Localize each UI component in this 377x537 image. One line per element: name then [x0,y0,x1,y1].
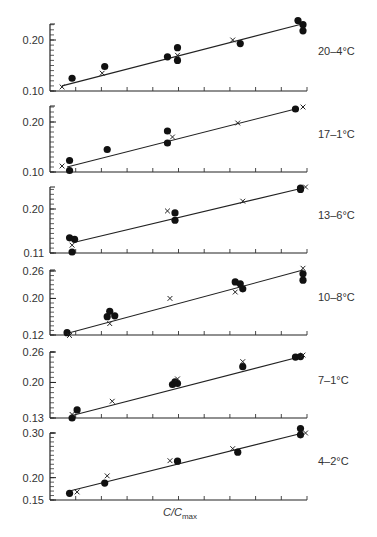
data-point-dot [174,458,181,465]
fit-line [62,24,303,86]
fit-line [67,109,295,167]
data-point-dot [171,209,178,216]
x-axis-label-sub: max [182,512,197,521]
panel-1: 0.200.1020–4°C [23,17,355,97]
data-point-cross [70,243,75,248]
data-point-cross [301,105,306,110]
panel-2: 0.200.1017–1°C [23,105,355,178]
data-point-dot [297,353,304,360]
data-point-dot [111,312,118,319]
data-point-cross [60,164,65,169]
stacked-scatter-chart: 0.200.1020–4°C0.200.1017–1°C0.200.1113–6… [0,0,377,537]
data-point-dot [299,277,306,284]
data-point-dot [164,139,171,146]
data-point-cross [303,431,308,436]
data-point-dot [66,157,73,164]
panel-3: 0.200.1113–6°C [23,184,355,259]
data-point-cross [105,473,110,478]
data-point-dot [299,270,306,277]
panel-5: 0.260.200.137–1°C [23,346,349,424]
y-tick-label: 0.12 [23,329,44,341]
y-tick-label: 0.10 [23,85,44,97]
y-tick-label: 0.20 [23,34,44,46]
y-tick-label: 0.20 [23,292,44,304]
data-point-dot [297,186,304,193]
fit-line [72,356,303,415]
data-point-dot [299,27,306,34]
data-point-dot [71,236,78,243]
panel-temperature-label: 10–8°C [318,291,355,303]
data-point-dot [171,217,178,224]
fit-line [75,188,303,242]
panel-temperature-label: 20–4°C [318,45,355,57]
data-point-dot [297,431,304,438]
data-point-dot [239,285,246,292]
data-point-dot [68,75,75,82]
panel-temperature-label: 13–6°C [318,209,355,221]
x-axis-label-main: C/C [163,506,182,518]
panel-temperature-label: 7–1°C [318,374,349,386]
data-point-dot [164,127,171,134]
data-point-dot [66,490,73,497]
y-tick-label: 0.20 [23,376,44,388]
data-point-cross [60,85,65,90]
y-tick-label: 0.11 [23,247,44,259]
data-point-dot [68,248,75,255]
y-tick-label: 0.20 [23,116,44,128]
data-point-dot [174,57,181,64]
data-point-cross [170,135,175,140]
panel-temperature-label: 4–2°C [318,455,349,467]
data-point-dot [292,105,299,112]
y-tick-label: 0.20 [23,472,44,484]
y-tick-label: 0.13 [23,412,44,424]
data-point-dot [68,414,75,421]
y-tick-label: 0.26 [23,346,44,358]
panel-temperature-label: 17–1°C [318,128,355,140]
data-point-cross [301,266,306,271]
y-tick-label: 0.26 [23,265,44,277]
data-point-dot [164,53,171,60]
panel-4: 0.260.200.1210–8°C [23,265,355,341]
data-point-cross [240,199,245,204]
fit-line [70,270,303,333]
data-point-dot [101,479,108,486]
data-point-dot [101,63,108,70]
panel-6: 0.300.200.154–2°C [23,425,349,506]
data-point-cross [100,71,105,76]
data-point-cross [233,290,238,295]
y-tick-label: 0.15 [23,494,44,506]
data-point-cross [110,399,115,404]
data-point-cross [165,209,170,214]
data-point-dot [104,146,111,153]
data-point-cross [75,490,80,495]
data-point-dot [66,167,73,174]
data-point-cross [168,296,173,301]
data-point-dot [299,21,306,28]
x-axis-label: C/Cmax [163,506,197,521]
y-tick-label: 0.30 [23,427,44,439]
y-tick-label: 0.20 [23,203,44,215]
data-point-dot [174,44,181,51]
y-tick-label: 0.10 [23,166,44,178]
data-point-dot [234,449,241,456]
data-point-dot [239,363,246,370]
data-point-dot [237,40,244,47]
data-point-cross [168,458,173,463]
